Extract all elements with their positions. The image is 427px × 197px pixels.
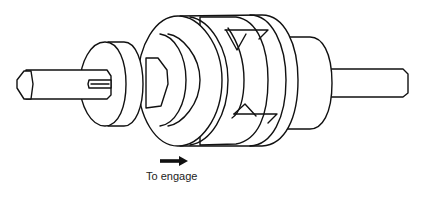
clutch-diagram <box>0 0 427 197</box>
right-shaft <box>328 69 408 97</box>
engage-label: To engage <box>146 170 197 182</box>
arrow-right-icon <box>160 156 188 166</box>
key <box>88 80 111 88</box>
